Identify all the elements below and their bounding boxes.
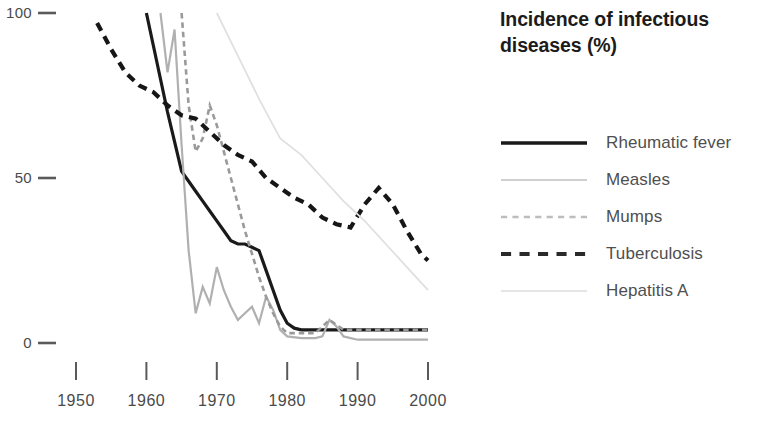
legend-swatch-tuberculosis [500, 244, 588, 264]
chart-title: Incidence of infectious diseases (%) [500, 6, 765, 59]
legend-swatch-hepatitis-a [500, 281, 588, 301]
x-axis-label-1970: 1970 [183, 392, 251, 410]
legend-swatch-measles [500, 170, 588, 190]
y-axis-label-50: 50 [0, 169, 32, 186]
chart-title-line-2: diseases (%) [500, 32, 765, 58]
legend-label: Mumps [606, 207, 662, 227]
data-series-group [97, 13, 428, 340]
legend-item-hepatitis-a[interactable]: Hepatitis A [500, 272, 765, 309]
axis-tick-marks [38, 13, 428, 380]
chart-title-line-1: Incidence of infectious [500, 6, 765, 32]
legend-item-list: Rheumatic feverMeaslesMumpsTuberculosisH… [500, 124, 765, 309]
chart-legend: Incidence of infectious diseases (%) Rhe… [500, 0, 765, 424]
series-line-measles [160, 13, 428, 340]
series-line-rheumatic-fever [146, 13, 428, 330]
legend-swatch-rheumatic-fever [500, 133, 588, 153]
y-axis-label-100: 100 [0, 4, 32, 21]
series-line-tuberculosis [97, 23, 428, 261]
series-line-hepatitis-a [217, 13, 428, 290]
legend-swatch-mumps [500, 207, 588, 227]
x-axis-label-1990: 1990 [324, 392, 392, 410]
series-line-mumps [182, 13, 428, 333]
x-axis-label-1960: 1960 [112, 392, 180, 410]
chart-plot-area: 050100 195019601970198019902000 [0, 0, 480, 424]
legend-item-mumps[interactable]: Mumps [500, 198, 765, 235]
y-axis-label-0: 0 [0, 334, 32, 351]
legend-label: Tuberculosis [606, 244, 703, 264]
x-axis-label-1950: 1950 [42, 392, 110, 410]
legend-item-rheumatic-fever[interactable]: Rheumatic fever [500, 124, 765, 161]
x-axis-label-1980: 1980 [253, 392, 321, 410]
legend-label: Measles [606, 170, 670, 190]
legend-item-measles[interactable]: Measles [500, 161, 765, 198]
chart-page: 050100 195019601970198019902000 Incidenc… [0, 0, 765, 424]
line-chart-svg [0, 0, 480, 424]
legend-item-tuberculosis[interactable]: Tuberculosis [500, 235, 765, 272]
legend-label: Rheumatic fever [606, 133, 731, 153]
x-axis-label-2000: 2000 [394, 392, 462, 410]
legend-label: Hepatitis A [606, 281, 688, 301]
